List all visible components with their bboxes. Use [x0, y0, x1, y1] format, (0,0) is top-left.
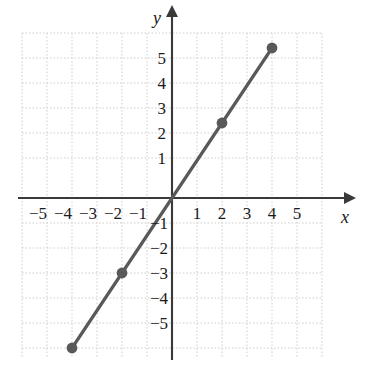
y-axis-label: y	[151, 8, 161, 28]
x-tick-label: −5	[29, 204, 47, 223]
y-tick-label: 4	[158, 74, 167, 93]
data-point	[267, 43, 278, 54]
y-tick-label: −1	[150, 214, 168, 233]
data-point	[67, 343, 78, 354]
x-tick-label: −3	[79, 204, 97, 223]
y-tick-labels-negative: −1 −2 −3 −4 −5	[150, 214, 169, 333]
coordinate-graph: −5 −4 −3 −2 −1 1 2 3 4 5 5 4 3 2 1 −1 −2…	[0, 0, 365, 367]
y-tick-labels-positive: 5 4 3 2 1	[158, 49, 167, 168]
x-tick-label: 2	[218, 204, 227, 223]
x-tick-label: 5	[293, 204, 302, 223]
x-tick-labels-negative: −5 −4 −3 −2 −1	[29, 204, 147, 223]
y-axis-arrow-icon	[166, 5, 178, 17]
x-tick-label: 4	[268, 204, 277, 223]
x-tick-labels-positive: 1 2 3 4 5	[193, 204, 302, 223]
x-tick-label: −2	[104, 204, 122, 223]
x-axis	[18, 192, 356, 204]
x-axis-arrow-icon	[344, 192, 356, 204]
y-tick-label: 5	[158, 49, 167, 68]
graph-svg: −5 −4 −3 −2 −1 1 2 3 4 5 5 4 3 2 1 −1 −2…	[0, 0, 365, 367]
x-tick-label: −1	[129, 204, 147, 223]
y-tick-label: −5	[150, 314, 168, 333]
y-tick-label: −4	[150, 289, 169, 308]
x-tick-label: −4	[54, 204, 73, 223]
data-point	[117, 268, 128, 279]
x-tick-label: 3	[243, 204, 252, 223]
y-tick-label: 2	[158, 124, 167, 143]
y-tick-label: −2	[150, 239, 168, 258]
y-tick-label: 3	[158, 99, 167, 118]
y-tick-label: −3	[150, 264, 168, 283]
x-axis-label: x	[340, 207, 349, 227]
y-tick-label: 1	[158, 149, 167, 168]
data-point	[217, 118, 228, 129]
x-tick-label: 1	[193, 204, 202, 223]
